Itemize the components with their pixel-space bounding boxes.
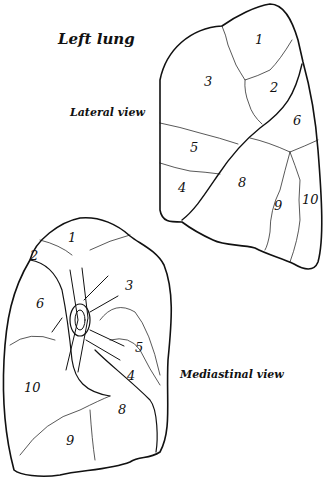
mediastinal-view-label: Mediastinal view	[180, 368, 284, 381]
mediastinal-segment-2: 2	[30, 248, 38, 263]
lateral-segment-1: 1	[255, 32, 263, 47]
lateral-view-label: Lateral view	[70, 106, 145, 119]
mediastinal-segment-10: 10	[24, 380, 41, 395]
mediastinal-lung-outline	[3, 218, 171, 476]
lateral-segment-6: 6	[293, 113, 301, 128]
lateral-segment-5: 5	[190, 140, 198, 155]
mediastinal-segment-8: 8	[118, 402, 126, 417]
lateral-segment-9: 9	[274, 198, 282, 213]
left-lung-diagram: Left lung Lateral view Mediastinal view …	[0, 0, 328, 486]
lateral-segment-3: 3	[204, 74, 212, 89]
lateral-segment-4: 4	[178, 180, 186, 195]
lateral-segment-8: 8	[238, 175, 246, 190]
mediastinal-segment-4: 4	[127, 368, 135, 383]
lateral-segment-2: 2	[270, 80, 278, 95]
diagram-title: Left lung	[58, 30, 135, 48]
mediastinal-segment-1: 1	[68, 230, 76, 245]
lung-drawings	[0, 0, 328, 486]
mediastinal-segment-3: 3	[125, 278, 133, 293]
lateral-segment-10: 10	[302, 192, 319, 207]
mediastinal-segment-9: 9	[66, 433, 74, 448]
mediastinal-segment-5: 5	[135, 340, 143, 355]
lateral-lung-outline	[160, 4, 322, 269]
mediastinal-segment-6: 6	[36, 296, 44, 311]
